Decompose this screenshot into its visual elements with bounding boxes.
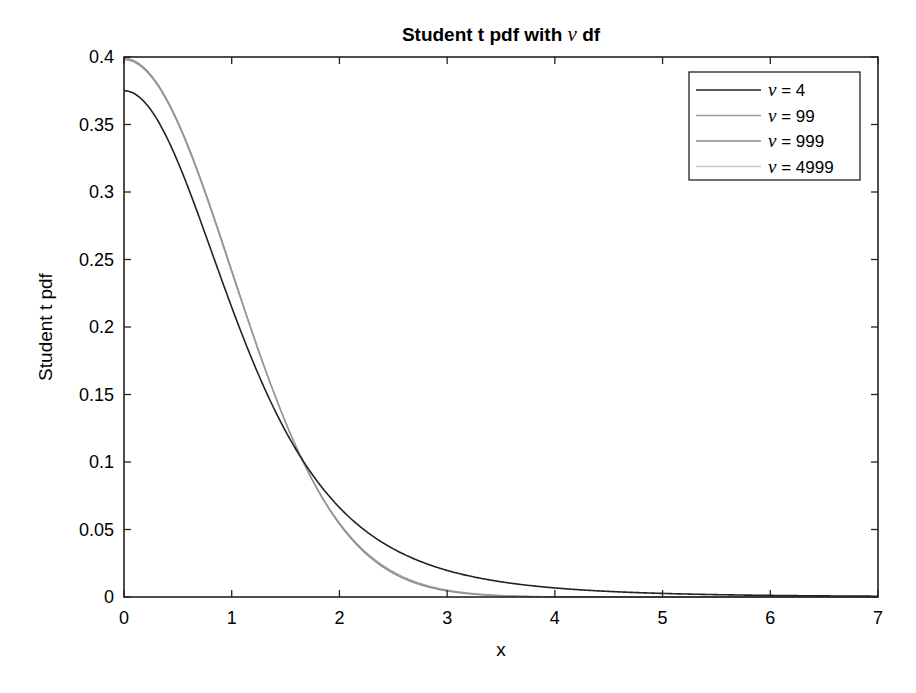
chart-title: Student t pdf with ν df <box>402 22 601 46</box>
y-tick-label: 0.15 <box>79 385 114 405</box>
y-tick-label: 0.05 <box>79 520 114 540</box>
legend-label: ν = 4 <box>768 79 805 100</box>
y-tick-label: 0.2 <box>89 317 114 337</box>
student-t-pdf-chart: 01234567 00.050.10.150.20.250.30.350.4 S… <box>0 0 916 693</box>
y-tick-label: 0.3 <box>89 182 114 202</box>
legend-label: ν = 4999 <box>768 156 834 177</box>
x-tick-label: 5 <box>658 608 668 628</box>
x-tick-label: 4 <box>550 608 560 628</box>
legend-label: ν = 999 <box>768 130 824 151</box>
legend-label: ν = 99 <box>768 105 815 126</box>
legend: ν = 4ν = 99ν = 999ν = 4999 <box>689 72 860 180</box>
x-axis-label: x <box>496 639 506 660</box>
x-tick-label: 1 <box>227 608 237 628</box>
x-tick-label: 3 <box>442 608 452 628</box>
y-tick-label: 0.4 <box>89 47 114 67</box>
x-tick-label: 6 <box>765 608 775 628</box>
x-tick-label: 7 <box>873 608 883 628</box>
y-tick-label: 0.25 <box>79 250 114 270</box>
x-tick-label: 0 <box>119 608 129 628</box>
y-tick-label: 0 <box>104 587 114 607</box>
y-tick-label: 0.35 <box>79 115 114 135</box>
x-tick-label: 2 <box>334 608 344 628</box>
y-tick-label: 0.1 <box>89 452 114 472</box>
y-axis-label: Student t pdf <box>35 272 56 380</box>
